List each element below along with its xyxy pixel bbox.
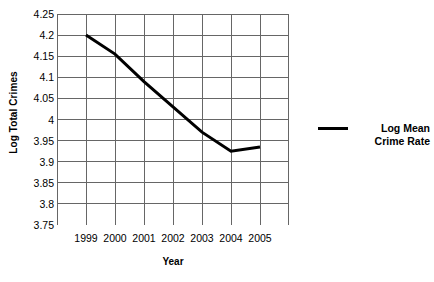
- plot-area: [57, 14, 289, 225]
- legend-item-label-line2: Crime Rate: [349, 135, 430, 148]
- chart-legend: Log Mean Crime Rate: [318, 122, 430, 148]
- legend-item-label-line1: Log Mean: [349, 122, 430, 135]
- legend-item-label: Log Mean Crime Rate: [349, 122, 430, 148]
- x-tick-label: 2005: [240, 233, 280, 244]
- legend-line-swatch-icon: [318, 127, 348, 130]
- x-axis-title-text: Year: [162, 256, 183, 267]
- x-axis-title: Year: [57, 256, 289, 267]
- line-chart: Log Total Crimes 4.254.24.154.14.0543.95…: [0, 0, 434, 282]
- plot-svg: [57, 14, 289, 225]
- legend-item: Log Mean Crime Rate: [318, 122, 430, 148]
